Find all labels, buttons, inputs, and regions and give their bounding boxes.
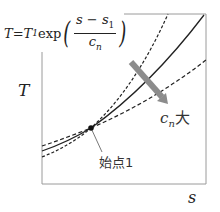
leader-line (91, 128, 102, 152)
num-a: s (76, 12, 83, 27)
paren-right: ) (120, 18, 127, 48)
y-axis-label: T (18, 80, 29, 100)
num-b-sub: 1 (109, 20, 115, 30)
start-point-label: 始点1 (99, 152, 133, 171)
paren-left: ( (64, 18, 71, 48)
arrow-label-suffix: 大 (175, 109, 190, 127)
arrow-label: cn大 (160, 106, 190, 129)
curve-large-cn (42, 60, 206, 146)
den: c (89, 34, 96, 49)
formula: T = T1 exp ( s − s1 cn ) (4, 12, 129, 54)
num-op: − (83, 12, 102, 27)
den-sub: n (96, 41, 102, 51)
formula-lhs: T (4, 26, 13, 41)
formula-fraction: s − s1 cn (74, 12, 116, 54)
x-axis-label: s (188, 188, 196, 207)
diagram: T = T1 exp ( s − s1 cn ) T s 始点1 cn大 (0, 0, 220, 212)
num-b: s (102, 12, 109, 27)
formula-eq: = (13, 26, 24, 41)
formula-coef: T (24, 26, 33, 41)
formula-func: exp (38, 26, 61, 41)
start-point-dot (88, 125, 94, 131)
